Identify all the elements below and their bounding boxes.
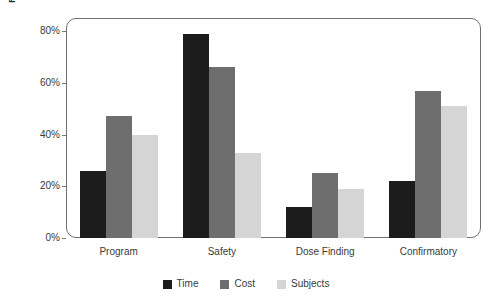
bar-time-confirmatory[interactable]	[389, 181, 415, 238]
legend-item-cost[interactable]: Cost	[220, 279, 255, 289]
bar-time-dose-finding[interactable]	[286, 207, 312, 238]
x-axis-category-labels: ProgramSafetyDose FindingConfirmatory	[67, 246, 480, 262]
y-axis-tick-labels: 0%20%40%60%80%	[22, 0, 60, 303]
bar-group-safety	[183, 31, 261, 238]
legend-swatch-subjects-icon	[277, 280, 286, 289]
bar-subjects-dose-finding[interactable]	[338, 189, 364, 238]
y-tick-mark	[62, 238, 66, 239]
y-tick-label: 40%	[28, 130, 60, 140]
bar-subjects-program[interactable]	[132, 135, 158, 239]
bar-chart: Reduction Over Traditional 0%20%40%60%80…	[0, 0, 492, 303]
legend-item-time[interactable]: Time	[163, 279, 199, 289]
x-label-confirmatory: Confirmatory	[377, 246, 480, 258]
legend-swatch-time-icon	[163, 280, 172, 289]
bar-cost-dose-finding[interactable]	[312, 173, 338, 238]
x-label-dose-finding: Dose Finding	[274, 246, 377, 258]
bar-group-confirmatory	[389, 31, 467, 238]
legend-swatch-cost-icon	[220, 280, 229, 289]
y-tick-label: 60%	[28, 78, 60, 88]
x-label-safety: Safety	[170, 246, 273, 258]
y-tick-label: 20%	[28, 181, 60, 191]
y-axis-title: Reduction Over Traditional	[4, 0, 20, 46]
bar-group-program	[80, 31, 158, 238]
y-tick-mark	[62, 186, 66, 187]
legend-label: Cost	[234, 279, 255, 289]
y-tick-label: 80%	[28, 26, 60, 36]
bar-subjects-confirmatory[interactable]	[441, 106, 467, 238]
bar-cost-program[interactable]	[106, 116, 132, 238]
bar-time-safety[interactable]	[183, 34, 209, 238]
y-tick-mark	[62, 83, 66, 84]
legend-label: Subjects	[291, 279, 329, 289]
bar-cost-confirmatory[interactable]	[415, 91, 441, 238]
bar-time-program[interactable]	[80, 171, 106, 238]
bar-cost-safety[interactable]	[209, 67, 235, 238]
plot-area	[67, 31, 480, 238]
x-label-program: Program	[67, 246, 170, 258]
y-tick-label: 0%	[28, 233, 60, 243]
bar-subjects-safety[interactable]	[235, 153, 261, 238]
y-tick-mark	[62, 135, 66, 136]
legend-label: Time	[177, 279, 199, 289]
chart-legend: TimeCostSubjects	[0, 279, 492, 289]
bar-group-dose-finding	[286, 31, 364, 238]
y-tick-mark	[62, 31, 66, 32]
legend-item-subjects[interactable]: Subjects	[277, 279, 329, 289]
